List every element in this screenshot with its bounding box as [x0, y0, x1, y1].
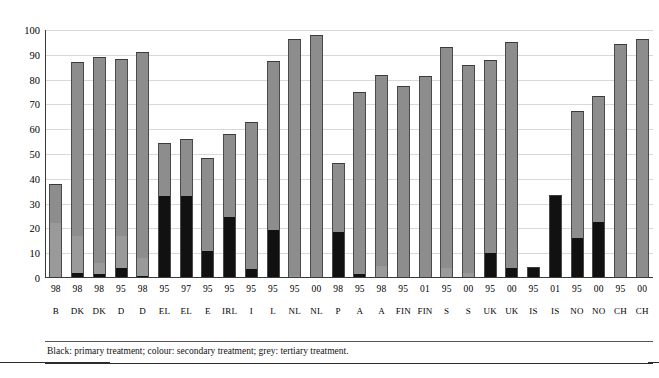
bottom-rule-right [648, 362, 659, 363]
y-tick-label: 70 [2, 99, 40, 110]
x-axis-year-labels: 9898989598959795959595950098959895019500… [45, 284, 653, 298]
x-country-label: B [53, 306, 59, 316]
x-country-label: E [205, 306, 211, 316]
x-country-label: EL [180, 306, 191, 316]
x-country-label: P [336, 306, 341, 316]
x-country-label: IRL [222, 306, 237, 316]
x-country-label: DK [71, 306, 84, 316]
x-country-label: FIN [417, 306, 432, 316]
y-tick-label: 30 [2, 198, 40, 209]
x-year-label: 00 [594, 284, 604, 294]
plot-area [45, 30, 653, 278]
y-tick-label: 10 [2, 248, 40, 259]
x-year-label: 00 [507, 284, 517, 294]
x-year-label: 95 [246, 284, 256, 294]
x-country-label: FIN [396, 306, 411, 316]
y-tick-label: 80 [2, 74, 40, 85]
x-year-label: 01 [550, 284, 560, 294]
x-year-label: 95 [529, 284, 539, 294]
x-year-label: 98 [138, 284, 148, 294]
x-year-label: 98 [377, 284, 387, 294]
footnote-divider [45, 341, 653, 342]
y-tick-label: 20 [2, 223, 40, 234]
x-country-label: NL [310, 306, 322, 316]
x-year-label: 98 [73, 284, 83, 294]
x-year-label: 98 [333, 284, 343, 294]
x-year-label: 97 [181, 284, 191, 294]
footnote-text: Black: primary treatment; colour: second… [47, 345, 647, 357]
y-tick-label: 60 [2, 124, 40, 135]
x-country-label: CH [636, 306, 649, 316]
x-country-label: CH [614, 306, 627, 316]
x-year-label: 95 [572, 284, 582, 294]
y-tick-label: 40 [2, 173, 40, 184]
x-country-label: L [270, 306, 276, 316]
x-year-label: 01 [420, 284, 430, 294]
x-year-label: 95 [398, 284, 408, 294]
bottom-rule-main [45, 363, 653, 364]
x-country-label: UK [483, 306, 496, 316]
x-year-label: 95 [355, 284, 365, 294]
x-country-label: D [118, 306, 125, 316]
x-year-label: 95 [290, 284, 300, 294]
x-country-label: D [139, 306, 146, 316]
x-year-label: 00 [463, 284, 473, 294]
x-country-label: IS [529, 306, 537, 316]
y-tick-label: 50 [2, 149, 40, 160]
x-year-label: 98 [94, 284, 104, 294]
x-year-label: 95 [116, 284, 126, 294]
plot-axis-frame [45, 30, 653, 278]
y-tick-label: 90 [2, 49, 40, 60]
x-year-label: 95 [159, 284, 169, 294]
x-year-label: 00 [637, 284, 647, 294]
x-country-label: NO [592, 306, 605, 316]
x-year-label: 95 [268, 284, 278, 294]
x-year-label: 95 [203, 284, 213, 294]
x-axis-country-labels: BDKDKDDELELEIRLILNLNLPAAFINFINSSUKUKISIS… [45, 306, 653, 320]
x-country-label: NL [289, 306, 301, 316]
x-year-label: 95 [442, 284, 452, 294]
x-year-label: 95 [225, 284, 235, 294]
x-year-label: 95 [615, 284, 625, 294]
y-axis-tick-labels: 0102030405060708090100 [0, 30, 40, 278]
x-country-label: I [250, 306, 253, 316]
x-country-label: DK [93, 306, 106, 316]
x-year-label: 95 [485, 284, 495, 294]
x-country-label: IS [551, 306, 559, 316]
x-country-label: S [444, 306, 449, 316]
x-country-label: UK [505, 306, 518, 316]
x-year-label: 00 [311, 284, 321, 294]
x-country-label: EL [159, 306, 170, 316]
y-tick-label: 100 [2, 25, 40, 36]
figure-container: 0102030405060708090100 98989895989597959… [0, 0, 659, 378]
x-country-label: NO [570, 306, 583, 316]
y-tick-label: 0 [2, 273, 40, 284]
x-country-label: A [378, 306, 385, 316]
x-country-label: S [466, 306, 471, 316]
x-year-label: 98 [51, 284, 61, 294]
x-country-label: A [356, 306, 363, 316]
